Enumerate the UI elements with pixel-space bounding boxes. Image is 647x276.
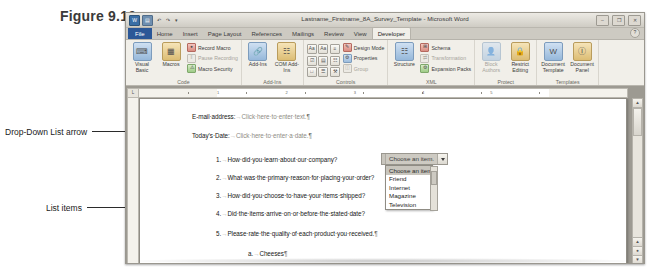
- scroll-up-button[interactable]: ▲: [633, 99, 642, 108]
- structure-icon: ☷: [395, 42, 414, 61]
- button-label: Pause Recording: [198, 55, 238, 61]
- close-button[interactable]: ✕: [628, 15, 641, 26]
- button-label: Restrict Editing: [507, 62, 533, 73]
- add-ins-button[interactable]: 🔗Add-Ins: [245, 42, 271, 68]
- document-page[interactable]: E-mail·address:→Click·here·to·enter·text…: [139, 98, 627, 264]
- window-drop-shadow: [128, 258, 640, 264]
- block-authors-icon: 👤: [482, 42, 501, 61]
- control-icon[interactable]: ≡: [330, 44, 340, 54]
- doc-line-question-2: 2.→What·was·the·primary·reason·for·placi…: [216, 174, 374, 181]
- visual-basic-button[interactable]: ⌨Visual Basic: [129, 42, 155, 73]
- drop-down-list-popup[interactable]: Choose an item.FriendInternetMagazineTel…: [385, 165, 433, 210]
- question-text: Did·the·items·arrive·on·or·before·the·st…: [227, 210, 365, 217]
- ribbon-tab-file[interactable]: File: [128, 28, 152, 39]
- controls-gallery[interactable]: AaAa≡☑▤☷□☰⚒: [307, 42, 340, 77]
- control-icon[interactable]: □: [307, 67, 317, 77]
- button-label: Macros: [162, 62, 179, 68]
- properties-icon: ⚙: [343, 54, 352, 63]
- restrict-editing-button[interactable]: 🔒Restrict Editing: [507, 42, 533, 73]
- schema-button[interactable]: ⊞Schema: [420, 43, 471, 52]
- control-icon[interactable]: ⚒: [330, 67, 340, 77]
- window-controls[interactable]: – ❐ ✕: [596, 15, 641, 26]
- ribbon[interactable]: ⌨Visual Basic▦Macros●Record Macro‖Pause …: [126, 40, 644, 86]
- dropdown-item[interactable]: Friend: [386, 175, 432, 184]
- restore-button[interactable]: ❐: [612, 15, 625, 26]
- dropdown-item[interactable]: Television: [386, 200, 432, 209]
- design-mode-button[interactable]: ✎Design Mode: [343, 43, 385, 52]
- ribbon-tab-page-layout[interactable]: Page Layout: [203, 28, 247, 39]
- minimize-button[interactable]: –: [596, 15, 609, 26]
- control-icon[interactable]: ▤: [318, 56, 328, 66]
- dropdown-scrollbar[interactable]: [430, 166, 438, 211]
- ribbon-tab-bar[interactable]: FileHomeInsertPage LayoutReferencesMaili…: [126, 28, 644, 40]
- document-template-button[interactable]: WDocument Template: [540, 42, 566, 73]
- pilcrow-mark: ¶: [284, 250, 287, 257]
- ribbon-group-code: ⌨Visual Basic▦Macros●Record Macro‖Pause …: [126, 40, 242, 85]
- dropdown-item[interactable]: Choose an item.: [386, 166, 432, 175]
- horizontal-ruler[interactable]: 12345: [138, 88, 628, 98]
- question-text: How·did·you·learn·about·our·company?: [227, 156, 337, 163]
- ruler-number: 2: [285, 90, 287, 95]
- control-icon[interactable]: Aa: [307, 44, 317, 54]
- block-authors-button[interactable]: 👤Block Authors: [478, 42, 504, 73]
- ribbon-tab-review[interactable]: Review: [319, 28, 349, 39]
- content-control-selected-text: Choose an item.: [386, 154, 437, 164]
- expansion-packs-button[interactable]: ⚙Expansion Packs: [420, 64, 471, 73]
- macros-icon: ▦: [162, 42, 181, 61]
- scrollbar-thumb[interactable]: [633, 108, 642, 136]
- macros-button[interactable]: ▦Macros: [158, 42, 184, 68]
- pilcrow-mark: ¶: [308, 132, 311, 139]
- help-icon[interactable]: ?: [630, 28, 640, 38]
- vertical-scrollbar[interactable]: ▲ ▲ ● ▼: [632, 98, 643, 264]
- doc-line-question-5a: a.→Cheeses¶: [248, 250, 287, 257]
- dropdown-item[interactable]: Internet: [386, 183, 432, 192]
- add-ins-icon: 🔗: [248, 42, 267, 61]
- ribbon-tab-developer[interactable]: Developer: [372, 27, 411, 39]
- select-browse-object-button[interactable]: ●: [633, 246, 642, 255]
- properties-button[interactable]: ⚙Properties: [343, 54, 385, 63]
- control-icon[interactable]: ☑: [307, 56, 317, 66]
- button-label: Group: [354, 66, 368, 72]
- document-panel-button[interactable]: ⒾDocument Panel: [569, 42, 595, 73]
- group-title: Add-Ins: [242, 79, 303, 85]
- drop-down-list-content-control[interactable]: Choose an item.: [381, 153, 448, 165]
- structure-button[interactable]: ☷Structure: [391, 42, 417, 68]
- window-title: Lastname_Firstname_8A_Survey_Template - …: [126, 15, 644, 22]
- previous-page-button[interactable]: ▲: [633, 237, 642, 246]
- dropdown-item[interactable]: Magazine: [386, 192, 432, 201]
- chevron-down-icon[interactable]: [437, 154, 447, 164]
- ribbon-tab-mailings[interactable]: Mailings: [287, 28, 319, 39]
- button-label: Structure: [394, 62, 415, 68]
- button-label: Schema: [431, 45, 450, 51]
- ruler-number: 4: [422, 90, 424, 95]
- ribbon-tab-references[interactable]: References: [246, 28, 287, 39]
- scrollbar-thumb[interactable]: [431, 171, 437, 185]
- button-label: Visual Basic: [129, 62, 155, 73]
- group-title: Code: [126, 79, 241, 85]
- placeholder-text[interactable]: Click·here·to·enter·a·date.: [236, 132, 309, 139]
- ribbon-tab-home[interactable]: Home: [152, 28, 178, 39]
- ribbon-group-add-ins: 🔗Add-Ins☷COM Add-InsAdd-Ins: [242, 40, 304, 85]
- transformation-icon: ⇄: [420, 54, 429, 63]
- ribbon-tab-view[interactable]: View: [349, 28, 372, 39]
- ruler-number: 3: [354, 90, 356, 95]
- group-title: Controls: [304, 79, 388, 85]
- button-label: Design Mode: [354, 45, 385, 51]
- control-icon[interactable]: Aa: [318, 44, 328, 54]
- record-macro-icon: ●: [187, 43, 196, 52]
- control-icon[interactable]: ☰: [318, 67, 328, 77]
- ribbon-tab-insert[interactable]: Insert: [178, 28, 203, 39]
- macro-security-button[interactable]: ⚠Macro Security: [187, 64, 238, 73]
- vertical-ruler: [127, 98, 139, 264]
- button-label: Document Panel: [569, 62, 595, 73]
- com-add-ins-button[interactable]: ☷COM Add-Ins: [274, 42, 300, 73]
- placeholder-text[interactable]: Click·here·to·enter·text.: [242, 113, 307, 120]
- button-label: Block Authors: [478, 62, 504, 73]
- ribbon-group-controls: AaAa≡☑▤☷□☰⚒✎Design Mode⚙Properties◫Group…: [304, 40, 389, 85]
- ribbon-group-protect: 👤Block Authors🔒Restrict EditingProtect: [475, 40, 537, 85]
- question-text: Please·rate·the·quality·of·each·product·…: [227, 230, 374, 237]
- button-label: Transformation: [431, 55, 466, 61]
- record-macro-button[interactable]: ●Record Macro: [187, 43, 238, 52]
- control-icon[interactable]: ☷: [330, 56, 340, 66]
- line-prefix: E-mail·address:: [192, 113, 235, 120]
